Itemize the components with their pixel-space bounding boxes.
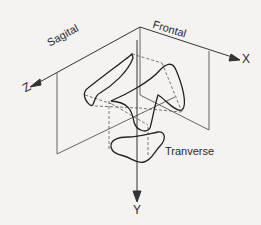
sagittal-section bbox=[84, 54, 133, 105]
y-axis-label: Y bbox=[133, 203, 141, 217]
x-axis bbox=[140, 27, 240, 61]
x-axis-label: X bbox=[242, 52, 250, 66]
transverse-section bbox=[111, 132, 164, 162]
transverse-plane-label: Tranverse bbox=[165, 145, 214, 157]
planes-drawing bbox=[0, 0, 261, 225]
projection-box bbox=[85, 54, 182, 157]
anatomical-planes-diagram: Sagital Frontal Tranverse X Y Z bbox=[0, 0, 261, 225]
sagittal-plane bbox=[57, 73, 175, 154]
